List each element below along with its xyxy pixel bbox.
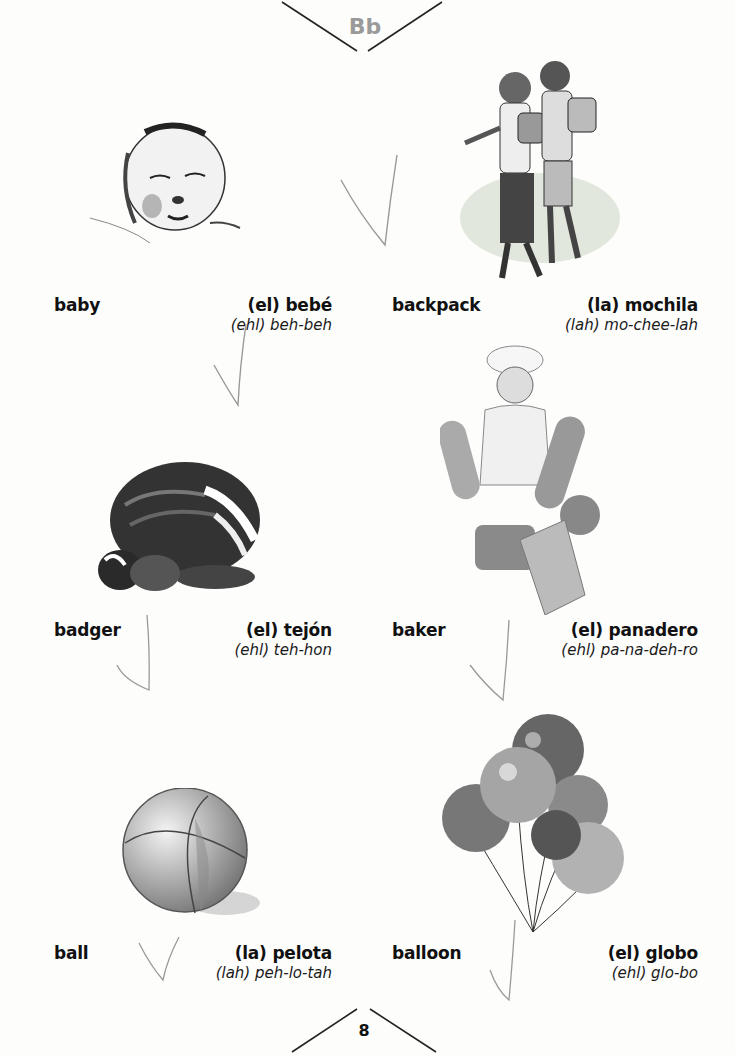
baby-illustration	[90, 118, 250, 258]
spanish-word: (la) mochila	[587, 295, 698, 315]
english-word: backpack	[392, 295, 480, 315]
entry-badger: badger (el) tejón (ehl) teh-hon	[54, 620, 332, 665]
check-mark	[335, 150, 405, 250]
entry-baker: baker (el) panadero (ehl) pa-na-deh-ro	[392, 620, 698, 665]
pronunciation: (ehl) teh-hon	[234, 641, 332, 659]
entry-ball: ball (la) pelota (lah) peh-lo-tah	[54, 943, 332, 988]
spanish-word: (el) tejón	[246, 620, 332, 640]
entry-balloon: balloon (el) globo (ehl) glo-bo	[392, 943, 698, 988]
badger-illustration	[95, 455, 265, 595]
entry-backpack: backpack (la) mochila (lah) mo-chee-lah	[392, 295, 698, 340]
baker-illustration	[440, 345, 610, 615]
english-word: baker	[392, 620, 445, 640]
spanish-word: (el) bebé	[248, 295, 332, 315]
english-word: balloon	[392, 943, 461, 963]
letter-heading: Bb	[340, 14, 390, 39]
pronunciation: (lah) peh-lo-tah	[216, 964, 332, 982]
pronunciation: (lah) mo-chee-lah	[565, 316, 698, 334]
pronunciation: (ehl) beh-beh	[231, 316, 332, 334]
entry-baby: baby (el) bebé (ehl) beh-beh	[54, 295, 332, 340]
pronunciation: (ehl) pa-na-deh-ro	[561, 641, 698, 659]
english-word: baby	[54, 295, 100, 315]
spanish-word: (el) globo	[608, 943, 698, 963]
page-number: 8	[352, 1021, 376, 1040]
spanish-word: (la) pelota	[235, 943, 332, 963]
english-word: badger	[54, 620, 121, 640]
spanish-word: (el) panadero	[571, 620, 698, 640]
backpack-illustration	[460, 58, 620, 290]
balloons-illustration	[438, 710, 633, 940]
pronunciation: (ehl) glo-bo	[612, 964, 698, 982]
ball-illustration	[120, 788, 260, 918]
english-word: ball	[54, 943, 89, 963]
